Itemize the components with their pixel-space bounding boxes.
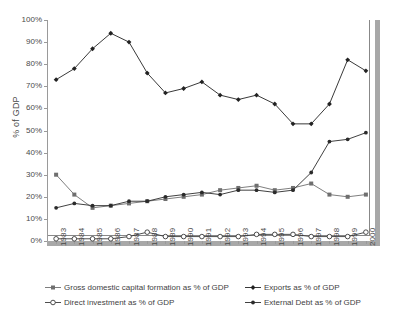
data-point (364, 193, 368, 197)
data-point (309, 171, 313, 175)
y-tick-label: 60% (8, 104, 42, 112)
y-tick-label: 30% (8, 171, 42, 179)
data-point (251, 285, 256, 290)
data-point (346, 195, 350, 199)
data-point (345, 57, 350, 62)
data-point (72, 193, 76, 197)
data-point (51, 300, 56, 305)
data-point (90, 236, 95, 241)
data-point (218, 193, 222, 197)
data-point (345, 234, 350, 239)
y-tick-label: 0% (8, 237, 42, 245)
data-point (236, 97, 241, 102)
legend-label: External Debt as % of GDP (264, 298, 361, 307)
line-chart: % of GDP 0%10%20%30%40%50%60%70%80%90%10… (0, 0, 400, 317)
legend-item[interactable]: Direct investment as % of GDP (44, 298, 244, 307)
data-point (54, 236, 59, 241)
legend-item[interactable]: Gross domestic capital formation as % of… (44, 283, 244, 292)
data-point (236, 188, 240, 192)
data-point (218, 188, 222, 192)
data-point (255, 184, 259, 188)
data-point (291, 188, 295, 192)
data-point (363, 68, 368, 73)
series-0 (54, 173, 368, 210)
series-line (56, 232, 366, 239)
data-point (327, 234, 332, 239)
data-point (72, 202, 76, 206)
series-line (56, 33, 366, 124)
y-tick-label: 10% (8, 215, 42, 223)
data-point (127, 234, 132, 239)
data-point (255, 188, 259, 192)
data-point (109, 204, 113, 208)
data-point (127, 199, 131, 203)
data-point (54, 77, 59, 82)
plot-area: 0%10%20%30%40%50%60%70%80%90%100% 198319… (47, 20, 380, 246)
series-2 (54, 230, 368, 241)
data-point (272, 232, 277, 237)
data-point (108, 236, 113, 241)
data-point (182, 193, 186, 197)
data-point (181, 86, 186, 91)
series-3 (54, 131, 368, 210)
data-point (145, 230, 150, 235)
data-point (364, 131, 368, 135)
legend-marker-icon (44, 283, 62, 292)
data-point (254, 232, 259, 237)
data-point (327, 193, 331, 197)
data-point (251, 301, 255, 305)
legend-label: Gross domestic capital formation as % of… (64, 283, 229, 292)
series-layer (47, 20, 380, 246)
data-point (200, 190, 204, 194)
legend-marker-icon (244, 283, 262, 292)
legend-row: Direct investment as % of GDPExternal De… (44, 295, 392, 310)
data-point (291, 232, 296, 237)
data-point (164, 195, 168, 199)
series-line (56, 175, 366, 208)
y-tick-label: 90% (8, 38, 42, 46)
data-point (127, 40, 132, 45)
data-point (328, 140, 332, 144)
data-point (218, 234, 223, 239)
y-tick-label: 100% (8, 16, 42, 24)
y-tick-label: 50% (8, 127, 42, 135)
legend-item[interactable]: Exports as % of GDP (244, 283, 392, 292)
data-point (236, 234, 241, 239)
legend-item[interactable]: External Debt as % of GDP (244, 298, 392, 307)
data-point (181, 234, 186, 239)
y-tick-label: 80% (8, 60, 42, 68)
data-point (254, 93, 259, 98)
data-point (309, 182, 313, 186)
data-point (51, 286, 55, 290)
data-point (145, 199, 149, 203)
data-point (54, 206, 58, 210)
data-point (54, 173, 58, 177)
data-point (91, 204, 95, 208)
data-point (163, 234, 168, 239)
legend-label: Exports as % of GDP (264, 283, 340, 292)
legend-marker-icon (44, 298, 62, 307)
legend-row: Gross domestic capital formation as % of… (44, 280, 392, 295)
data-point (346, 137, 350, 141)
series-line (56, 133, 366, 208)
data-point (309, 234, 314, 239)
data-point (273, 190, 277, 194)
legend-marker-icon (244, 298, 262, 307)
chart-legend: Gross domestic capital formation as % of… (44, 280, 392, 310)
data-point (200, 234, 205, 239)
data-point (72, 236, 77, 241)
data-point (364, 230, 369, 235)
y-tick-label: 40% (8, 149, 42, 157)
y-tick-label: 70% (8, 82, 42, 90)
y-tick-label: 20% (8, 193, 42, 201)
legend-label: Direct investment as % of GDP (64, 298, 174, 307)
series-1 (54, 31, 369, 126)
